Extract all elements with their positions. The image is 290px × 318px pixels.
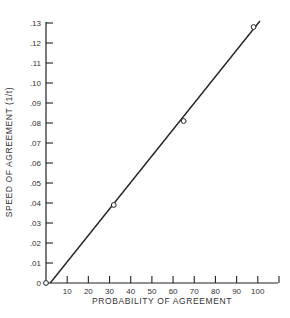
y-axis-title: SPEED OF AGREEMENT (1/t) — [4, 87, 14, 217]
x-tick-label: 60 — [169, 287, 178, 296]
data-series — [44, 21, 260, 285]
y-ticks: 0.01.02.03.04.05.06.07.08.09.10.11.12.13 — [30, 19, 53, 288]
x-tick-label: 30 — [105, 287, 114, 296]
y-tick-label: .04 — [30, 199, 42, 208]
x-tick-label: 20 — [84, 287, 93, 296]
data-point-marker — [181, 119, 186, 124]
data-point-marker — [44, 281, 49, 286]
data-point-marker — [111, 203, 116, 208]
scatter-chart: 0.01.02.03.04.05.06.07.08.09.10.11.12.13… — [0, 0, 290, 318]
x-axis-title: PROBABILITY OF AGREEMENT — [92, 296, 232, 306]
x-tick-label: 10 — [63, 287, 72, 296]
x-tick-label: 70 — [190, 287, 199, 296]
fit-line — [50, 21, 260, 283]
y-tick-label: .02 — [30, 239, 42, 248]
y-tick-label: 0 — [37, 279, 42, 288]
y-tick-label: .01 — [30, 259, 42, 268]
x-tick-label: 90 — [232, 287, 241, 296]
x-tick-label: 40 — [126, 287, 135, 296]
data-point-marker — [251, 25, 256, 30]
y-tick-label: .09 — [30, 99, 42, 108]
x-ticks: 102030405060708090100 — [63, 276, 279, 296]
y-tick-label: .03 — [30, 219, 42, 228]
y-tick-label: .08 — [30, 119, 42, 128]
y-tick-label: .10 — [30, 79, 42, 88]
y-tick-label: .12 — [30, 39, 42, 48]
y-tick-label: .05 — [30, 179, 42, 188]
y-tick-label: .06 — [30, 159, 42, 168]
y-tick-label: .11 — [30, 59, 41, 68]
x-tick-label: 50 — [147, 287, 156, 296]
x-tick-label: 100 — [251, 287, 265, 296]
y-tick-label: .13 — [30, 19, 42, 28]
y-tick-label: .07 — [30, 139, 42, 148]
x-tick-label: 80 — [211, 287, 220, 296]
